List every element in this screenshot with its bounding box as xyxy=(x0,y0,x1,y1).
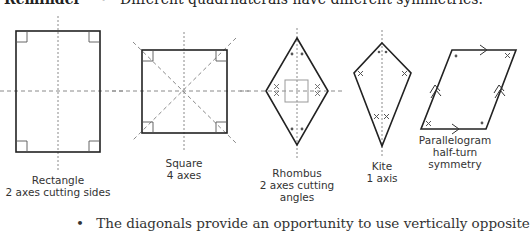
caption-title: Rhombus xyxy=(260,167,335,179)
kite-figure xyxy=(354,30,411,158)
caption-title: Parallelogram xyxy=(419,134,491,146)
rhombus-figure xyxy=(240,28,345,158)
caption-title: Rectangle xyxy=(6,174,111,186)
diagonals-text: The diagonals provide an opportunity to … xyxy=(96,215,530,231)
caption-title: Square xyxy=(166,157,203,169)
parallelogram-shape xyxy=(421,50,516,129)
caption-detail: half-turn xyxy=(419,146,491,158)
diagonals-note: • The diagonals provide an opportunity t… xyxy=(76,215,530,231)
parallelogram-caption: Parallelogram half-turn symmetry xyxy=(419,134,491,170)
square-caption: Square 4 axes xyxy=(166,157,203,181)
caption-detail: 2 axes cutting xyxy=(260,179,335,191)
caption-detail: 1 axis xyxy=(366,172,397,184)
angle-dot-markers xyxy=(455,55,484,125)
parallelogram-figure xyxy=(421,45,516,134)
caption-detail: angles xyxy=(260,191,335,203)
caption-detail: 4 axes xyxy=(166,169,203,181)
kite-caption: Kite 1 axis xyxy=(366,160,397,184)
rectangle-caption: Rectangle 2 axes cutting sides xyxy=(6,174,111,198)
rectangle-figure xyxy=(0,16,126,170)
rhombus-caption: Rhombus 2 axes cutting angles xyxy=(260,167,335,203)
caption-detail: 2 axes cutting sides xyxy=(6,186,111,198)
parallel-arrow-markers xyxy=(430,45,505,134)
bullet-icon: • xyxy=(76,215,84,231)
caption-detail: symmetry xyxy=(419,158,491,170)
caption-title: Kite xyxy=(366,160,397,172)
square-figure xyxy=(112,32,250,152)
